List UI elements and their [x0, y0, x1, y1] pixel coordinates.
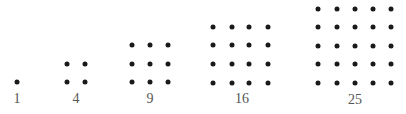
dot [15, 80, 20, 85]
square-number-label: 1 [14, 92, 21, 106]
dot [335, 62, 340, 67]
dot [371, 25, 376, 30]
dot [335, 81, 340, 86]
dot [230, 43, 235, 48]
dot [266, 62, 271, 67]
dot [211, 62, 216, 67]
dot [211, 43, 216, 48]
square-numbers-diagram: 1491625 [0, 0, 406, 114]
dot [148, 43, 153, 48]
dot [389, 44, 394, 49]
dot [166, 80, 171, 85]
dot [316, 44, 321, 49]
dot [371, 62, 376, 67]
dot [353, 81, 358, 86]
dot [130, 80, 135, 85]
square-number-label: 4 [73, 92, 80, 106]
dot [83, 80, 88, 85]
dot [335, 44, 340, 49]
dot [83, 62, 88, 67]
dot [266, 43, 271, 48]
dot [335, 7, 340, 12]
dot [389, 25, 394, 30]
dot [230, 81, 235, 86]
dot [65, 80, 70, 85]
dot [353, 25, 358, 30]
dot [371, 7, 376, 12]
dot [247, 81, 252, 86]
dot [148, 80, 153, 85]
dot [266, 81, 271, 86]
dot [389, 62, 394, 67]
dot [353, 44, 358, 49]
dot [166, 43, 171, 48]
dot [166, 62, 171, 67]
square-number-label: 16 [235, 92, 249, 106]
dot [371, 44, 376, 49]
dot [247, 43, 252, 48]
dot [211, 81, 216, 86]
dot [353, 7, 358, 12]
dot [316, 62, 321, 67]
dot [371, 81, 376, 86]
dot [389, 81, 394, 86]
dot [335, 25, 340, 30]
dot [353, 62, 358, 67]
square-number-label: 9 [147, 92, 154, 106]
square-number-label: 25 [348, 93, 362, 107]
dot [316, 7, 321, 12]
dot [130, 43, 135, 48]
dot [316, 25, 321, 30]
dot [65, 62, 70, 67]
dot [211, 25, 216, 30]
dot [230, 62, 235, 67]
dot [389, 7, 394, 12]
dot [266, 25, 271, 30]
dot [316, 81, 321, 86]
dot [148, 62, 153, 67]
dot [130, 62, 135, 67]
dot [230, 25, 235, 30]
dot [247, 25, 252, 30]
dot [247, 62, 252, 67]
